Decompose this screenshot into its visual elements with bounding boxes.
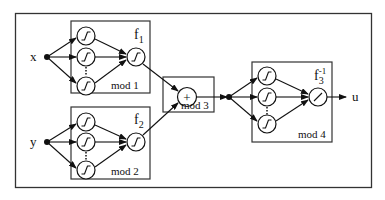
module-label-4: mod 4 [298,128,326,140]
linear-output-node-icon [309,88,327,106]
module-4: f3-1 mod 4 [229,62,332,142]
module-label-1: mod 1 [111,79,139,91]
function-label-f1: f1 [134,27,144,45]
sigmoid-node-icon [77,27,95,45]
sigmoid-output-node-icon [127,133,145,151]
output-label-u: u [352,89,359,104]
sigmoid-node-icon [77,133,95,151]
sigmoid-node-icon [77,48,95,66]
function-label-f3-inverse: f3-1 [314,66,326,86]
sigmoid-output-node-icon [127,48,145,66]
module-1: x f1 mod 1 [30,21,150,95]
module-3: + mod 3 [143,64,232,135]
sigmoid-node-icon [77,113,95,131]
sigmoid-node-icon [258,67,276,85]
function-label-f2: f2 [134,112,144,130]
sigmoid-node-icon [77,77,95,95]
network-diagram: x f1 mod 1 y f2 mod 2 [0,0,385,200]
sigmoid-node-icon [77,161,95,179]
sigmoid-node-icon [258,88,276,106]
module-2: y f2 mod 2 [30,107,150,179]
input-label-y: y [30,134,37,149]
input-label-x: x [30,49,37,64]
module-label-3: mod 3 [181,99,209,111]
module-label-2: mod 2 [111,165,139,177]
sigmoid-node-icon [258,115,276,133]
